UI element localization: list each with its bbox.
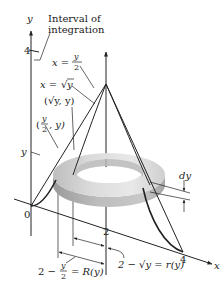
svg-text:x =: x =	[40, 79, 57, 90]
y-tick-4: 4	[24, 45, 30, 56]
origin-label: 0	[24, 209, 30, 220]
svg-text:2: 2	[61, 272, 66, 281]
svg-text:y: y	[66, 79, 73, 90]
y-level-marker: y	[20, 146, 27, 157]
r-label: 2 − √y = r(y)	[117, 259, 184, 270]
x-axis-label: x	[214, 260, 220, 271]
r-leader	[108, 248, 124, 258]
point-sqrt-label: (√y, y)	[44, 95, 75, 106]
dimension-R	[59, 252, 104, 264]
svg-text:2: 2	[42, 125, 47, 134]
dy-label: dy	[179, 170, 191, 181]
interval-label-line1: Interval of	[48, 13, 102, 24]
svg-text:, y): , y)	[49, 119, 65, 130]
interval-label-line2: integration	[48, 24, 105, 35]
svg-text:y: y	[60, 261, 66, 270]
y-axis-label: y	[26, 13, 33, 24]
leader-lines	[31, 33, 95, 155]
svg-text:y: y	[73, 52, 79, 61]
x-tick-2: 2	[103, 226, 109, 237]
svg-text:2: 2	[74, 63, 79, 72]
label-x-eq-sqrt-y: x = √ y	[40, 79, 74, 90]
label-x-eq-y-over-2: x = y 2	[52, 52, 82, 72]
svg-text:y: y	[41, 114, 47, 123]
svg-text:2 −: 2 −	[38, 266, 56, 277]
R-label: 2 − y 2 = R(y)	[38, 261, 104, 281]
dimension-r	[74, 238, 104, 246]
point-half-label: ( y 2 , y)	[36, 114, 65, 134]
svg-text:x =: x =	[52, 57, 69, 68]
svg-text:= R(y): = R(y)	[71, 266, 104, 277]
svg-text:(: (	[36, 119, 40, 130]
washer-diagram: dy y Interval of integration 4 x = y 2 x…	[0, 0, 224, 294]
